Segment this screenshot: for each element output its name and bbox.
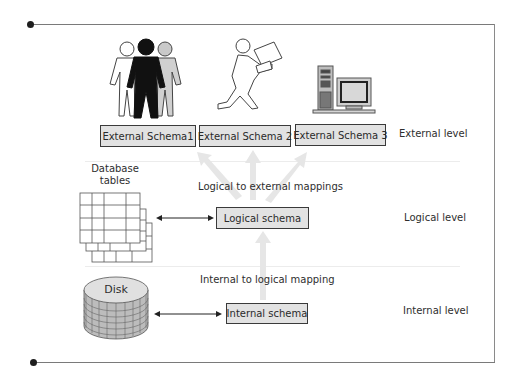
mapping-arrow-to-external-2 [245, 150, 261, 200]
database-tables-label: Database tables [80, 163, 150, 187]
user-group-icon [105, 32, 185, 122]
internal-schema-label: Internal schema [227, 308, 308, 319]
internal-schema-box: Internal schema [226, 303, 308, 324]
internal-to-logical-mapping-label: Internal to logical mapping [200, 274, 335, 285]
logical-to-external-mapping-label: Logical to external mappings [198, 181, 343, 192]
database-tables-label-line2: tables [80, 175, 150, 187]
running-person-with-package-icon [210, 36, 300, 126]
disk-label: Disk [88, 283, 144, 296]
external-schema-3-box: External Schema 3 [295, 124, 386, 146]
mapping-arrow-internal-to-logical [255, 231, 271, 300]
database-tables-label-line1: Database [80, 163, 150, 175]
external-schema-3-label: External Schema 3 [293, 130, 387, 141]
logical-level-label: Logical level [404, 212, 466, 223]
logical-schema-label: Logical schema [224, 213, 301, 224]
internal-level-label: Internal level [403, 305, 469, 316]
database-tables-icon [80, 193, 160, 263]
mapping-arrow-to-external-3 [265, 152, 307, 203]
desktop-computer-icon [310, 58, 380, 118]
logical-schema-box: Logical schema [216, 207, 309, 229]
mapping-arrow-to-external-1 [197, 152, 242, 200]
external-level-label: External level [399, 128, 467, 139]
external-schema-2-box: External Schema 2 [199, 125, 291, 147]
external-schema-1-label: External Schema1 [102, 131, 193, 142]
external-schema-2-label: External Schema 2 [198, 131, 292, 142]
disk-internal-bidirectional-arrow [154, 309, 229, 319]
external-schema-1-box: External Schema1 [100, 125, 196, 147]
